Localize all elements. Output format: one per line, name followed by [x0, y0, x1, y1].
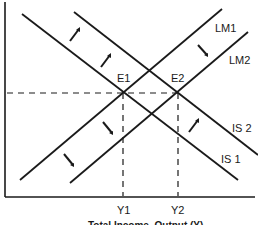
e1-label: E1 — [117, 72, 130, 84]
arrow-icon — [64, 154, 74, 167]
arrow-icon — [103, 122, 113, 135]
arrow-icon — [189, 118, 199, 132]
lm1-label: LM1 — [215, 22, 236, 34]
is1-curve — [22, 14, 238, 180]
is-lm-diagram: LM1 LM2 IS 2 IS 1 E1 E2 Y1 Y2 Total Inco… — [0, 0, 258, 225]
arrow-icon — [70, 27, 80, 41]
x-axis-title: Total Income, Output (Y) — [88, 220, 203, 225]
arrow-icon — [198, 45, 208, 57]
lm2-label: LM2 — [229, 54, 250, 66]
e2-label: E2 — [171, 72, 184, 84]
y1-tick-label: Y1 — [117, 204, 130, 216]
is2-label: IS 2 — [232, 122, 252, 134]
arrow-icon — [101, 53, 111, 67]
is1-label: IS 1 — [221, 153, 241, 165]
y2-tick-label: Y2 — [171, 204, 184, 216]
